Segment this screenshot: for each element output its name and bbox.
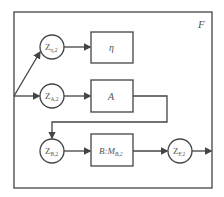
box-eta-label: η [109, 42, 114, 53]
frame-label: F [197, 18, 205, 30]
svg-text:ZF,2: ZF,2 [173, 146, 185, 157]
svg-text:Zη,2: Zη,2 [45, 42, 58, 53]
svg-text:ZB,2: ZB,2 [45, 146, 59, 157]
diagram: F Zη,2 ZA,2 ZB,2 ZF,2 η A B:MB,2 [0, 0, 224, 197]
svg-text:ZA,2: ZA,2 [45, 91, 59, 102]
box-a-label: A [107, 91, 115, 102]
box-b-label: B:M [99, 146, 115, 156]
svg-text:B:MB,2: B:MB,2 [99, 146, 123, 157]
